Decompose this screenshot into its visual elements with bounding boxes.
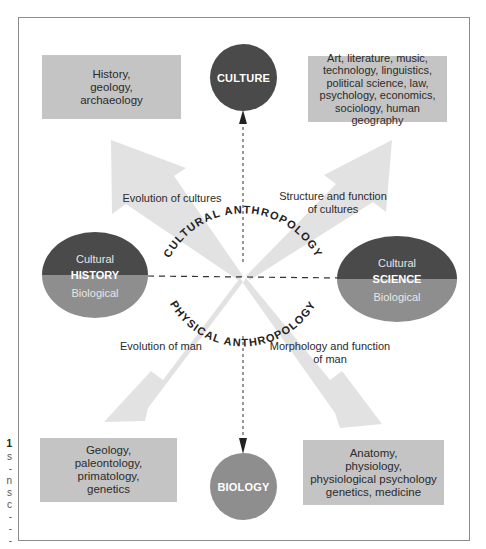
edge-fragment: - — [0, 535, 12, 546]
box-geology-paleontology: Geology, paleontology, primatology, gene… — [40, 438, 177, 502]
caption-structure-function-cultures: Structure and function of cultures — [268, 190, 398, 216]
caption-evolution-of-cultures: Evolution of cultures — [112, 192, 232, 205]
biology-label: BIOLOGY — [217, 481, 269, 493]
biology-circle: BIOLOGY — [210, 453, 277, 520]
edge-fragment: - — [0, 511, 12, 522]
edge-fragment: - — [0, 523, 12, 534]
culture-label: CULTURE — [217, 72, 270, 84]
history-label: HISTORY — [42, 269, 148, 281]
box-cultural-sciences: Art, literature, music, technology, ling… — [308, 56, 447, 122]
caption-morphology-function-man: Morphology and function of man — [260, 340, 400, 366]
edge-fragment: n — [0, 475, 12, 486]
box-anatomy-physiology: Anatomy, physiology, physiological psych… — [303, 440, 444, 505]
arrowhead-to-culture-icon — [239, 110, 247, 124]
edge-fragment: 1 — [0, 438, 12, 449]
science-label: SCIENCE — [337, 273, 457, 285]
science-biological-label: Biological — [337, 291, 457, 303]
history-ellipse: Cultural HISTORY Biological — [42, 232, 148, 318]
science-ellipse: Cultural SCIENCE Biological — [337, 236, 457, 322]
science-cultural-label: Cultural — [337, 257, 457, 269]
edge-fragment: s — [0, 487, 12, 498]
arrowhead-to-biology-icon — [239, 438, 247, 454]
horizontal-dashed-line — [148, 276, 343, 278]
caption-evolution-of-man: Evolution of man — [106, 340, 216, 353]
history-biological-label: Biological — [42, 287, 148, 299]
culture-circle: CULTURE — [210, 44, 277, 111]
edge-fragment: - — [0, 463, 12, 474]
box-history-geology-archaeology: History, geology, archaeology — [42, 55, 181, 119]
edge-fragment: c — [0, 499, 12, 510]
history-cultural-label: Cultural — [42, 253, 148, 265]
edge-fragment: s — [0, 451, 12, 462]
diagram-stage: CULTURAL ANTHROPOLOGY PHYSICAL ANTHROPOL… — [0, 0, 486, 549]
